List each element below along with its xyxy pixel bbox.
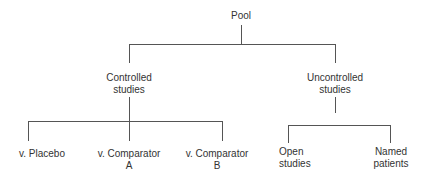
node-pool-label: Pool (221, 10, 261, 22)
connector-to-controlled (129, 44, 130, 63)
node-controlled-studies: Controlled studies (94, 72, 164, 96)
node-comparator-b-line1: v. Comparator (177, 148, 257, 160)
connector-to-open-studies (288, 125, 289, 143)
node-v-comparator-b: v. Comparator B (177, 148, 257, 172)
node-v-placebo: v. Placebo (7, 148, 77, 160)
node-controlled-line2: studies (94, 84, 164, 96)
connector-to-placebo (28, 121, 29, 141)
connector-uncontrolled-horizontal (288, 125, 391, 126)
node-placebo-line1: v. Placebo (7, 148, 77, 160)
node-uncontrolled-line2: studies (295, 84, 375, 96)
connector-to-uncontrolled (335, 44, 336, 63)
node-uncontrolled-studies: Uncontrolled studies (295, 72, 375, 96)
connector-controlled-horizontal (28, 121, 223, 122)
connector-pool-down (241, 25, 242, 44)
node-open-line2: studies (279, 158, 329, 170)
connector-to-named-patients (390, 125, 391, 143)
node-v-comparator-a: v. Comparator A (89, 148, 169, 172)
node-comparator-b-line2: B (177, 160, 257, 172)
connector-to-comparator-b (222, 121, 223, 141)
node-pool: Pool (221, 10, 261, 22)
node-controlled-line1: Controlled (94, 72, 164, 84)
node-named-patients: Named patients (366, 146, 416, 170)
connector-controlled-down (129, 97, 130, 121)
connector-to-comparator-a (129, 121, 130, 141)
connector-uncontrolled-down (335, 97, 336, 113)
node-comparator-a-line2: A (89, 160, 169, 172)
node-comparator-a-line1: v. Comparator (89, 148, 169, 160)
node-uncontrolled-line1: Uncontrolled (295, 72, 375, 84)
node-named-line1: Named (366, 146, 416, 158)
node-open-line1: Open (279, 146, 329, 158)
node-open-studies: Open studies (279, 146, 329, 170)
node-named-line2: patients (366, 158, 416, 170)
connector-level1-horizontal (129, 44, 336, 45)
